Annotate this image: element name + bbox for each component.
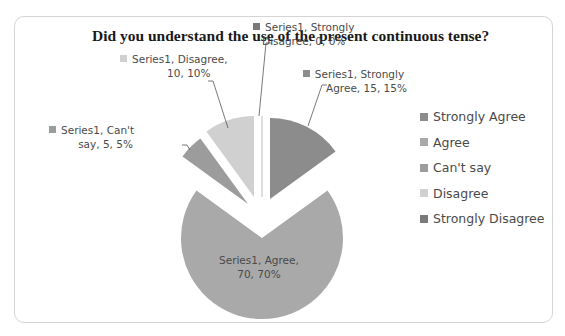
label-line-1: Series1, Disagree, xyxy=(132,53,228,65)
label-line-2: 70, 70% xyxy=(219,267,299,281)
legend-key-icon xyxy=(253,23,260,30)
legend-item-strongly-disagree[interactable]: Strongly Disagree xyxy=(420,206,545,232)
legend-label: Can't say xyxy=(433,160,491,175)
label-line-2: 10, 10% xyxy=(120,66,228,80)
leader-line-strongly-disagree xyxy=(259,43,272,116)
legend-label: Strongly Disagree xyxy=(433,211,545,226)
legend-label: Disagree xyxy=(433,186,488,201)
legend-item-agree[interactable]: Agree xyxy=(420,130,545,156)
data-label-cant-say: Series1, Can't say, 5, 5% xyxy=(49,123,134,151)
label-line-2: Agree, 15, 15% xyxy=(300,81,407,95)
data-label-strongly-disagree: Series1, Strongly Disagree, 0, 0% xyxy=(253,20,354,48)
legend-item-cant-say[interactable]: Can't say xyxy=(420,155,545,181)
legend-swatch-icon xyxy=(420,215,428,223)
chart-legend: Strongly Agree Agree Can't say Disagree … xyxy=(420,104,545,232)
legend-label: Strongly Agree xyxy=(433,109,526,124)
data-label-agree: Series1, Agree, 70, 70% xyxy=(219,253,299,281)
legend-label: Agree xyxy=(433,135,470,150)
legend-swatch-icon xyxy=(420,189,428,197)
legend-item-disagree[interactable]: Disagree xyxy=(420,181,545,207)
legend-key-icon xyxy=(303,70,310,77)
legend-swatch-icon xyxy=(420,164,428,172)
leader-line-disagree xyxy=(208,81,228,128)
legend-swatch-icon xyxy=(420,138,428,146)
data-label-disagree: Series1, Disagree, 10, 10% xyxy=(120,52,228,80)
slice-strongly-agree[interactable] xyxy=(270,118,336,199)
label-line-1: Series1, Agree, xyxy=(219,253,299,267)
legend-item-strongly-agree[interactable]: Strongly Agree xyxy=(420,104,545,130)
legend-swatch-icon xyxy=(420,113,428,121)
legend-key-icon xyxy=(120,55,127,62)
label-line-2: say, 5, 5% xyxy=(49,137,134,151)
data-label-strongly-agree: Series1, Strongly Agree, 15, 15% xyxy=(300,67,407,95)
label-line-1: Series1, Strongly xyxy=(315,68,404,80)
label-line-1: Series1, Can't xyxy=(61,124,134,136)
legend-key-icon xyxy=(49,126,56,133)
label-line-2: Disagree, 0, 0% xyxy=(253,34,354,48)
label-line-1: Series1, Strongly xyxy=(265,21,354,33)
